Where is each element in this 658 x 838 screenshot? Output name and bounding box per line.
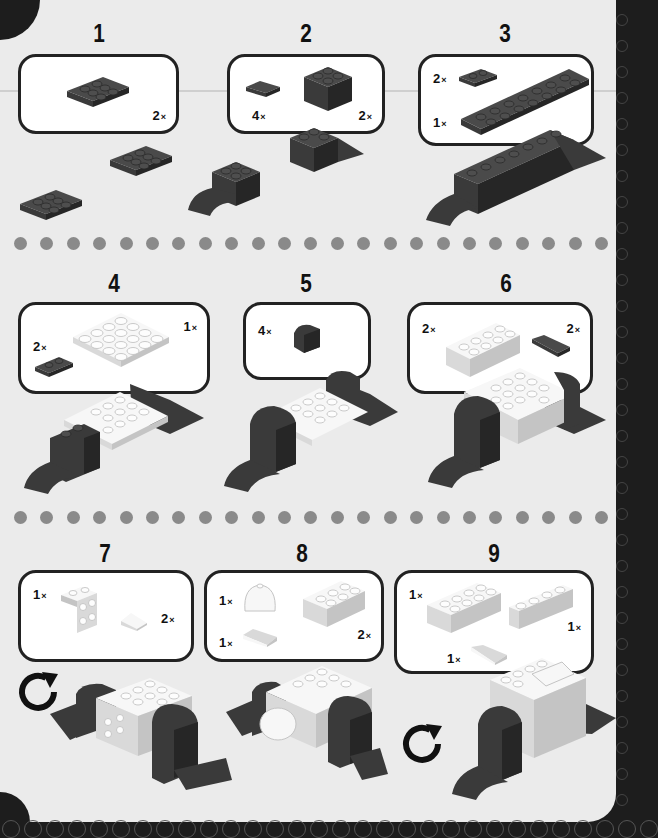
white-brick-icon — [299, 577, 369, 631]
step-number: 8 — [286, 538, 318, 569]
step-number: 9 — [478, 538, 510, 569]
quantity-label: 1× — [33, 587, 47, 602]
dark-bracket-icon — [290, 321, 324, 355]
white-brick-assembly — [424, 364, 608, 498]
quantity-label: 2× — [359, 108, 373, 123]
step-number: 7 — [89, 538, 121, 569]
dark-plate-build — [106, 140, 176, 182]
white-brick-icon — [425, 579, 505, 637]
quantity-label: 1× — [409, 587, 423, 602]
dark-plate-icon — [63, 73, 133, 111]
page-edge-bottom — [0, 822, 626, 836]
assembly-with-dome — [222, 652, 402, 782]
quantity-label: 2× — [153, 108, 167, 123]
page-edge-right — [616, 0, 624, 836]
step-number: 4 — [98, 268, 130, 299]
quantity-label: 2× — [422, 321, 436, 336]
white-bracket-icon — [57, 585, 101, 637]
dark-brick-icon — [300, 61, 356, 115]
parts-callout-step-1: 2× — [18, 54, 179, 134]
base-with-white-plate-assembly — [20, 378, 210, 498]
quantity-label: 2× — [433, 71, 447, 86]
page-corner — [0, 792, 30, 822]
final-assembly — [446, 654, 616, 804]
parts-callout-step-2: 4× 2× — [227, 54, 385, 134]
quantity-label: 2× — [161, 611, 175, 626]
quantity-label: 4× — [258, 323, 272, 338]
quantity-label: 2× — [33, 339, 47, 354]
white-slope-icon — [241, 627, 281, 649]
quantity-label: 1× — [219, 635, 233, 650]
quantity-label: 2× — [358, 627, 372, 642]
quantity-label: 4× — [252, 108, 266, 123]
quantity-label: 1× — [184, 319, 198, 334]
white-dome-icon — [241, 581, 279, 615]
step-number: 6 — [490, 268, 522, 299]
white-square-plate-icon — [71, 309, 171, 369]
parts-callout-step-7: 1× 2× — [18, 570, 194, 662]
quantity-label: 1× — [219, 593, 233, 608]
step-number: 5 — [290, 268, 322, 299]
parts-callout-step-8: 1× 1× 2× — [204, 570, 384, 662]
step-number: 2 — [290, 18, 322, 49]
quantity-label: 1× — [568, 619, 582, 634]
rotate-model-icon — [400, 722, 446, 768]
white-long-brick-icon — [507, 583, 577, 633]
step-number: 1 — [83, 18, 115, 49]
dark-curved-slope-icon — [530, 333, 574, 359]
base-with-brackets-assembly — [220, 364, 400, 494]
dark-base-assembly — [424, 118, 608, 226]
dark-plate-build — [16, 184, 86, 226]
dark-plate-icon — [33, 355, 75, 379]
flipped-assembly — [46, 674, 236, 794]
dark-brick-slope-build — [286, 124, 366, 176]
dark-curved-slope-icon — [244, 77, 284, 99]
dark-brick-slope-build — [186, 158, 266, 218]
step-row-separator — [14, 237, 608, 250]
step-row-separator — [14, 511, 608, 524]
step-number: 3 — [489, 18, 521, 49]
instruction-page: 1 2× 2 4× 2× — [0, 0, 616, 822]
quantity-label: 2× — [567, 321, 581, 336]
white-slope-icon — [119, 611, 149, 633]
